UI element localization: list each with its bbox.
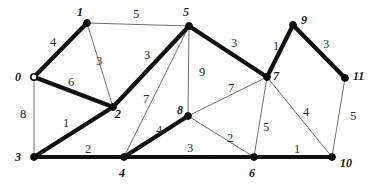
thin-edge-group	[34, 23, 345, 157]
edge-weight-label: 3	[187, 142, 193, 155]
edge-weight-label: 6	[68, 76, 74, 89]
edge-weight-label: 9	[199, 66, 205, 79]
graph-node-label: 2	[115, 108, 121, 120]
edge-weight-label: 1	[63, 117, 69, 130]
edge-weight-label: 2	[85, 143, 91, 156]
graph-edge	[188, 116, 254, 157]
edge-weight-label: 4	[156, 124, 162, 137]
edge-weight-label: 5	[350, 110, 356, 123]
edge-weight-label: 1	[273, 40, 279, 53]
graph-node-marker	[185, 113, 192, 120]
edge-weight-label: 3	[144, 49, 150, 62]
graph-node-label: 3	[15, 151, 21, 163]
graph-node-label: 9	[301, 14, 307, 26]
edge-weight-label: 5	[133, 8, 139, 21]
graph-node-marker	[290, 22, 297, 29]
edge-weight-label: 3	[231, 37, 237, 50]
graph-edge	[188, 26, 189, 116]
graph-edge	[113, 26, 189, 107]
graph-edge	[87, 23, 189, 26]
graph-node-label: 1	[77, 6, 83, 18]
graph-node-label: 0	[15, 71, 21, 83]
graph-edge	[293, 25, 345, 78]
graph-node-marker	[84, 20, 91, 27]
graph-node-label: 7	[273, 70, 279, 82]
graph-figure: 46835132743937154231501234567891011	[0, 0, 384, 185]
edge-weight-label: 4	[50, 36, 56, 49]
graph-node-label: 11	[353, 70, 364, 82]
graph-edge	[34, 107, 113, 157]
edge-weight-label: 7	[143, 93, 149, 106]
edge-weight-label: 8	[20, 108, 26, 121]
edge-weight-label: 3	[96, 55, 102, 68]
graph-node-marker	[31, 74, 37, 80]
graph-node-marker	[329, 154, 336, 161]
edge-weight-label: 7	[228, 82, 234, 95]
edge-weight-label: 5	[263, 121, 269, 134]
edge-weight-label: 4	[303, 106, 309, 119]
graph-node-label: 6	[249, 167, 255, 179]
graph-node-label: 4	[119, 167, 125, 179]
thick-edge-group	[34, 23, 345, 157]
graph-edge	[267, 25, 293, 77]
edge-weight-label: 1	[294, 143, 300, 156]
graph-node-marker	[251, 154, 258, 161]
graph-node-marker	[264, 74, 271, 81]
edge-weight-label: 2	[227, 132, 233, 145]
edge-weight-label: 3	[323, 38, 329, 51]
graph-edge	[34, 23, 87, 77]
graph-node-marker	[121, 154, 128, 161]
graph-edge	[332, 78, 345, 157]
graph-node-label: 8	[177, 104, 183, 116]
graph-node-label: 10	[340, 157, 352, 169]
graph-edge	[254, 77, 267, 157]
node-marker-group	[31, 20, 349, 161]
graph-node-marker	[186, 23, 193, 30]
graph-node-label: 5	[183, 6, 189, 18]
graph-node-marker	[342, 75, 349, 82]
graph-canvas	[0, 0, 384, 185]
graph-node-marker	[31, 154, 38, 161]
